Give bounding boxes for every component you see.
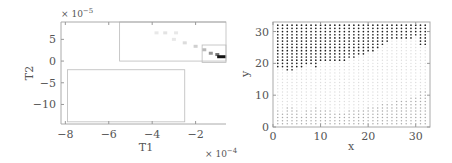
- y-axis-label: y: [239, 70, 252, 78]
- y-tick-label: −5: [40, 77, 56, 90]
- right-scatter-chart: 01020300102030xy: [239, 22, 430, 153]
- density-cell: [209, 52, 213, 55]
- density-cell: [163, 31, 167, 34]
- x-tick-label: −4: [144, 128, 160, 141]
- left-heatmap-chart: −8−6−4−250−5−10T1T2× 10−5× 10−4: [23, 7, 238, 159]
- density-cell: [202, 48, 206, 51]
- density-cell: [172, 38, 176, 41]
- x-tick-label: 10: [314, 130, 328, 143]
- x-tick-label: 20: [361, 130, 375, 143]
- x-tick-label: −6: [101, 128, 117, 141]
- y-tick-label: 10: [255, 89, 269, 102]
- density-cell: [217, 55, 226, 58]
- density-cell: [155, 31, 159, 34]
- density-cell: [174, 31, 178, 34]
- x-tick-label: 0: [270, 130, 277, 143]
- y-tick-label: 30: [255, 26, 269, 39]
- y-tick-label: 0: [49, 55, 56, 68]
- region-rectangle: [120, 22, 226, 61]
- density-cell: [194, 45, 198, 48]
- density-cell: [183, 41, 187, 44]
- x-tick-label: 30: [409, 130, 423, 143]
- y-tick-label: −10: [33, 98, 56, 111]
- region-rectangle: [68, 70, 185, 122]
- x-tick-label: −2: [187, 128, 203, 141]
- y-tick-label: 20: [255, 57, 269, 70]
- region-rectangle: [202, 45, 226, 62]
- y-tick-label: 5: [49, 33, 56, 46]
- x-axis-label: x: [348, 140, 355, 153]
- y-multiplier: × 10−5: [61, 7, 93, 19]
- chart-canvas: −8−6−4−250−5−10T1T2× 10−5× 10−4010203001…: [0, 0, 452, 163]
- x-axis-label: T1: [139, 141, 153, 154]
- x-tick-label: −8: [57, 128, 73, 141]
- x-multiplier: × 10−4: [205, 147, 238, 159]
- y-axis-label: T2: [23, 66, 36, 80]
- y-tick-label: 0: [262, 121, 269, 134]
